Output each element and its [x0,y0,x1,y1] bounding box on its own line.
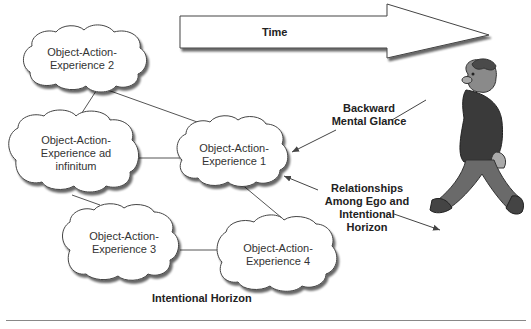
cloud-oae4-line1: Object-Action- [236,242,320,255]
relationships-line2: Among Ego and [318,195,416,208]
cloud-oae-inf-label: Object-Action- Experience ad infinitum [34,134,118,173]
cloud-oae2-line1: Object-Action- [44,46,120,59]
cloud-oae4-line2: Experience 4 [236,255,320,268]
cloud-oae3-line2: Experience 3 [84,243,164,256]
cloud-oae-inf-line1: Object-Action- [34,134,118,147]
cloud-oae4-label: Object-Action- Experience 4 [236,242,320,268]
cloud-oae1-line2: Experience 1 [194,155,274,168]
time-arrow [180,4,489,58]
cloud-oae3-line1: Object-Action- [84,230,164,243]
relationships-line4: Horizon [318,221,416,234]
backward-glance-line1: Backward [324,102,414,115]
cloud-oae1-line1: Object-Action- [194,142,274,155]
cloud-oae-inf-line2: Experience ad [34,147,118,160]
backward-glance-line2: Mental Glance [324,115,414,128]
cloud-oae3-label: Object-Action- Experience 3 [84,230,164,256]
cloud-oae-inf-line3: infinitum [34,160,118,173]
intentional-horizon-label: Intentional Horizon [152,292,252,305]
backward-mental-glance-label: Backward Mental Glance [324,102,414,128]
relationships-line1: Relationships [318,182,416,195]
relationships-line3: Intentional [318,208,416,221]
cloud-oae1-label: Object-Action- Experience 1 [194,142,274,168]
cloud-oae2-line2: Experience 2 [44,59,120,72]
walking-man-icon [430,59,524,214]
cloud-oae2-label: Object-Action- Experience 2 [44,46,120,72]
caption-divider [6,320,526,321]
time-label: Time [262,26,287,39]
relationships-label: Relationships Among Ego and Intentional … [318,182,416,234]
